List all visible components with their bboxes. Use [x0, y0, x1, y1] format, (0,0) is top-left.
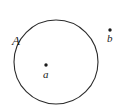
set-diagram-figure: A a b: [0, 0, 125, 107]
point-a-label: a: [43, 69, 49, 80]
diagram-canvas: [0, 0, 125, 107]
set-a-circle: [14, 20, 98, 104]
point-a-dot: [44, 63, 47, 66]
set-a-label: A: [12, 34, 20, 47]
point-b-label: b: [107, 33, 113, 44]
